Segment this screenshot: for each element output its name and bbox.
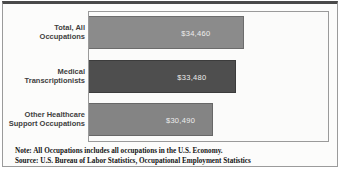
source-line: Source: U.S. Bureau of Labor Statistics,… [15, 157, 251, 167]
bar: $30,490 [89, 103, 213, 136]
category-label: Medical Transcriptionists [7, 59, 85, 92]
bar-value-label: $34,460 [181, 28, 210, 37]
chart-notes: Note: All Occupations includes all occup… [15, 147, 251, 166]
bar: $34,460 [89, 16, 244, 49]
category-labels: Total, All OccupationsMedical Transcript… [7, 11, 85, 142]
note-line: Note: All Occupations includes all occup… [15, 147, 251, 157]
bar-value-label: $33,480 [177, 72, 206, 81]
chart-figure: Total, All OccupationsMedical Transcript… [2, 1, 338, 167]
category-label: Total, All Occupations [7, 15, 85, 48]
bar: $33,480 [89, 60, 236, 93]
bar-value-label: $30,490 [166, 115, 195, 124]
category-label: Other Healthcare Support Occupations [7, 102, 85, 135]
plot-area: $34,460$33,480$30,490 [88, 11, 329, 142]
